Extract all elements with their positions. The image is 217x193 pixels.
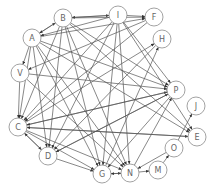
node-label: V [17,69,23,78]
edge-I-to-F [127,15,145,16]
node-H[interactable]: H [153,30,171,48]
node-G[interactable]: G [93,165,111,183]
node-I[interactable]: I [109,6,127,24]
edge-E-to-C [27,128,188,137]
edge-M-to-O [163,155,168,162]
edge-P-to-D [56,94,168,152]
edge-I-to-N [119,24,130,164]
node-V[interactable]: V [11,64,29,82]
node-label: I [117,11,119,20]
node-label: B [60,14,66,23]
node-label: H [159,35,165,44]
node-N[interactable]: N [121,164,139,182]
edge-C-to-N [26,130,121,169]
node-B[interactable]: B [54,9,72,27]
graph-canvas: BIFAHVPJCEODMGN [0,0,217,193]
node-label: O [171,144,177,153]
edge-D-to-G [57,159,94,171]
node-label: A [29,34,35,43]
edge-B-to-N [67,26,127,164]
node-label: D [45,152,51,161]
node-label: F [152,13,157,22]
node-E[interactable]: E [188,128,206,146]
node-A[interactable]: A [23,29,41,47]
node-J[interactable]: J [187,97,205,115]
node-D[interactable]: D [39,147,57,165]
edge-V-to-C [18,82,19,118]
node-O[interactable]: O [165,139,183,157]
node-label: E [194,133,199,142]
edge-B-to-A [40,23,56,33]
node-P[interactable]: P [167,81,185,99]
node-C[interactable]: C [9,118,27,136]
node-F[interactable]: F [145,8,163,26]
node-label: J [194,102,197,111]
node-label: C [15,123,21,132]
node-M[interactable]: M [149,161,167,179]
edge-V-to-P [29,74,167,89]
node-label: N [127,169,133,178]
node-label: G [99,170,105,179]
node-label: M [155,166,162,175]
edge-F-to-V [28,20,145,69]
edge-N-to-M [139,171,149,172]
edge-N-to-P [134,98,171,165]
node-label: P [174,86,179,95]
